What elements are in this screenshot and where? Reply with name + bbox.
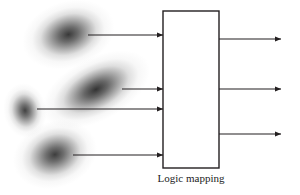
- process-box-caption: Logic mapping: [133, 172, 249, 184]
- caption-layer: Logic mapping: [0, 0, 300, 195]
- logic-mapping-diagram: Logic mapping: [0, 0, 300, 195]
